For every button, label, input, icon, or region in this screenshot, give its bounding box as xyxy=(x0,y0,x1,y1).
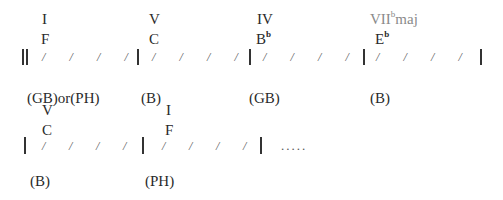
beat-slash: / xyxy=(243,140,246,152)
beat-slash: / xyxy=(70,51,73,63)
beat-slash: / xyxy=(189,140,192,152)
numeral-suffix: maj xyxy=(395,11,418,27)
beat-slash: / xyxy=(152,51,155,63)
roman-numeral-m6: I xyxy=(166,103,171,118)
roman-numeral-m4: VIIbmaj xyxy=(370,12,418,29)
section-label-m6: (PH) xyxy=(145,174,174,189)
beat-slash: / xyxy=(291,51,294,63)
chord-name-m4: Eb xyxy=(375,32,389,49)
chord-name-m5: C xyxy=(42,123,52,138)
flat-accidental: b xyxy=(266,29,271,39)
barline xyxy=(260,137,262,154)
numeral-root: VII xyxy=(370,11,391,27)
chord-root: B xyxy=(256,31,266,47)
chord-name-m6: F xyxy=(165,123,173,138)
beat-slash: / xyxy=(459,51,462,63)
chord-name-m2: C xyxy=(149,32,159,47)
beat-slash: / xyxy=(69,140,72,152)
section-label-m4: (B) xyxy=(370,91,390,106)
beat-slash: / xyxy=(42,140,45,152)
beat-slash: / xyxy=(346,51,349,63)
barline xyxy=(142,137,144,154)
beat-slash: / xyxy=(318,51,321,63)
beat-slash: / xyxy=(207,51,210,63)
beat-slash: / xyxy=(96,140,99,152)
barline xyxy=(137,49,139,65)
beat-slash: / xyxy=(431,51,434,63)
continuation-dots: ..... xyxy=(281,138,307,154)
beat-slash: / xyxy=(404,51,407,63)
beat-slash: / xyxy=(180,51,183,63)
flat-accidental: b xyxy=(391,9,396,19)
beat-slash: / xyxy=(376,51,379,63)
barline xyxy=(480,49,482,65)
flat-accidental: b xyxy=(384,29,389,39)
roman-numeral-m2: V xyxy=(149,12,160,27)
roman-numeral-m1: I xyxy=(42,12,47,27)
beat-slash: / xyxy=(42,51,45,63)
beat-slash: / xyxy=(97,51,100,63)
chord-root: E xyxy=(375,31,384,47)
barline xyxy=(24,137,26,154)
beat-slash: / xyxy=(162,140,165,152)
barline xyxy=(363,49,365,65)
double-barline xyxy=(22,49,28,65)
chord-name-m3: Bb xyxy=(256,32,271,49)
beat-slash: / xyxy=(125,51,128,63)
roman-numeral-m3: IV xyxy=(257,12,273,27)
barline xyxy=(249,49,251,65)
beat-slash: / xyxy=(235,51,238,63)
section-label-m2: (B) xyxy=(141,91,161,106)
beat-slash: / xyxy=(216,140,219,152)
section-label-m5: (B) xyxy=(30,174,50,189)
beat-slash: / xyxy=(263,51,266,63)
beat-slash: / xyxy=(123,140,126,152)
roman-numeral-m5: V xyxy=(42,103,53,118)
chord-name-m1: F xyxy=(41,32,49,47)
section-label-m1: (GB)or(PH) xyxy=(27,91,100,106)
section-label-m3: (GB) xyxy=(249,91,280,106)
